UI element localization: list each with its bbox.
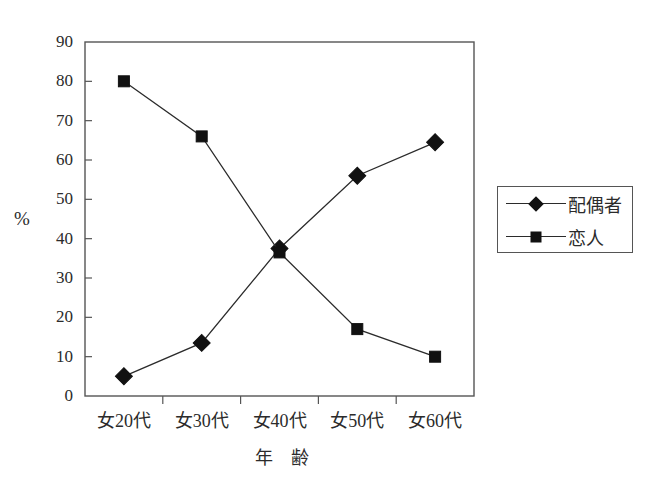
x-tick-label: 女60代 [390,412,480,430]
legend-item-spouse: 配偶者 [498,187,632,220]
series-lover [118,76,440,362]
y-tick-marks [85,81,92,356]
legend: 配偶者 恋人 [497,186,633,253]
x-tick-label: 女40代 [235,412,325,430]
legend-item-lover: 恋人 [498,220,632,253]
square-marker-icon [352,324,363,335]
x-tick-label: 女30代 [157,412,247,430]
legend-label-lover: 恋人 [568,224,604,250]
diamond-marker-icon [193,334,210,351]
series-spouse [115,134,443,385]
y-tick-label: 40 [37,230,73,247]
x-tick-marks [163,396,396,404]
square-marker-icon [531,231,542,242]
diamond-marker-icon [528,196,544,212]
x-tick-label: 女50代 [312,412,402,430]
y-tick-label: 50 [37,190,73,207]
y-tick-label: 30 [37,269,73,286]
legend-key-diamond [504,194,568,214]
diamond-marker-icon [115,368,132,385]
x-tick-label: 女20代 [79,412,169,430]
y-tick-label: 90 [37,33,73,50]
y-tick-label: 60 [37,151,73,168]
square-marker-icon [118,76,129,87]
series-line [124,81,435,356]
data-series-group [115,76,443,385]
x-axis-title: 年 齢 [232,443,332,469]
y-tick-label: 0 [37,387,73,404]
legend-key-square [504,227,568,247]
square-marker-icon [274,247,285,258]
y-tick-label: 80 [37,72,73,89]
line-chart: % 0102030405060708090 女20代女30代女40代女50代女6… [0,0,667,487]
series-line [124,142,435,376]
square-marker-icon [196,131,207,142]
y-tick-label: 10 [37,348,73,365]
y-tick-label: 20 [37,308,73,325]
legend-label-spouse: 配偶者 [568,191,622,217]
diamond-marker-icon [427,134,444,151]
y-tick-label: 70 [37,112,73,129]
square-marker-icon [430,351,441,362]
